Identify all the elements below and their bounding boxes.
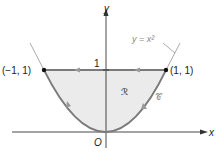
point-1-1 <box>164 68 168 72</box>
x-axis-arrow-icon <box>200 130 208 135</box>
y-tick-label: 1 <box>94 59 100 69</box>
origin-label: O <box>94 138 102 148</box>
diagram-canvas <box>0 0 221 154</box>
point-label-neg1-1: (−1, 1) <box>2 66 31 76</box>
parabola-region-diagram: y x O 1 y = x² (−1, 1) (1, 1) ℛ 𝒞 <box>0 0 221 154</box>
curve-label-leader <box>163 43 175 53</box>
x-axis-label: x <box>209 128 214 138</box>
curve-equation-label: y = x² <box>132 35 154 44</box>
parabola-extension-left <box>30 43 44 70</box>
point-neg1-1 <box>42 68 46 72</box>
point-label-1-1: (1, 1) <box>170 66 193 76</box>
boundary-label: 𝒞 <box>155 93 162 102</box>
region-label: ℛ <box>121 88 128 97</box>
y-axis-label: y <box>104 4 109 14</box>
